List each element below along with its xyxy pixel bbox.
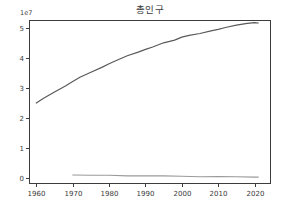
- y-tick-label: 0: [20, 175, 24, 183]
- series-line-총인구: [36, 23, 258, 103]
- x-tick-label: 2010: [210, 190, 228, 198]
- series-line-unlabeled-lower-series: [73, 175, 259, 177]
- y-tick-label: 2: [20, 115, 24, 123]
- y-tick-label: 4: [20, 55, 25, 63]
- x-tick-label: 2000: [174, 190, 192, 198]
- figure-root: 총인구 1e7 01234519601970198019902000201020…: [0, 0, 287, 212]
- x-tick-label: 1990: [137, 190, 155, 198]
- y-tick-label: 1: [20, 145, 24, 153]
- plot-border: [30, 21, 271, 184]
- x-tick-label: 1960: [28, 190, 46, 198]
- x-tick-label: 1980: [101, 190, 119, 198]
- plot-svg: 0123451960197019801990200020102020: [0, 0, 287, 212]
- y-tick-label: 5: [20, 25, 24, 33]
- x-tick-label: 2020: [247, 190, 265, 198]
- y-tick-label: 3: [20, 85, 24, 93]
- x-tick-label: 1970: [65, 190, 83, 198]
